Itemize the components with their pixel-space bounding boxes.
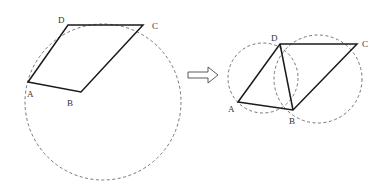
label-d: D bbox=[58, 15, 65, 25]
label-b: B bbox=[67, 98, 73, 108]
circumscribed-circle bbox=[25, 24, 181, 180]
right-figure: A B C D bbox=[228, 33, 368, 126]
left-figure: A B C D bbox=[25, 15, 181, 180]
label-d: D bbox=[271, 33, 278, 43]
transform-arrow-icon bbox=[188, 67, 218, 83]
label-c: C bbox=[362, 39, 368, 49]
label-c: C bbox=[152, 21, 158, 31]
diagonal-db bbox=[280, 44, 293, 110]
label-a: A bbox=[228, 104, 235, 114]
quadrilateral-abcd bbox=[238, 44, 357, 110]
geometry-diagram: A B C D A B C D bbox=[0, 0, 387, 184]
label-b: B bbox=[289, 116, 295, 126]
label-a: A bbox=[27, 89, 34, 99]
quadrilateral-abcd bbox=[28, 25, 143, 92]
